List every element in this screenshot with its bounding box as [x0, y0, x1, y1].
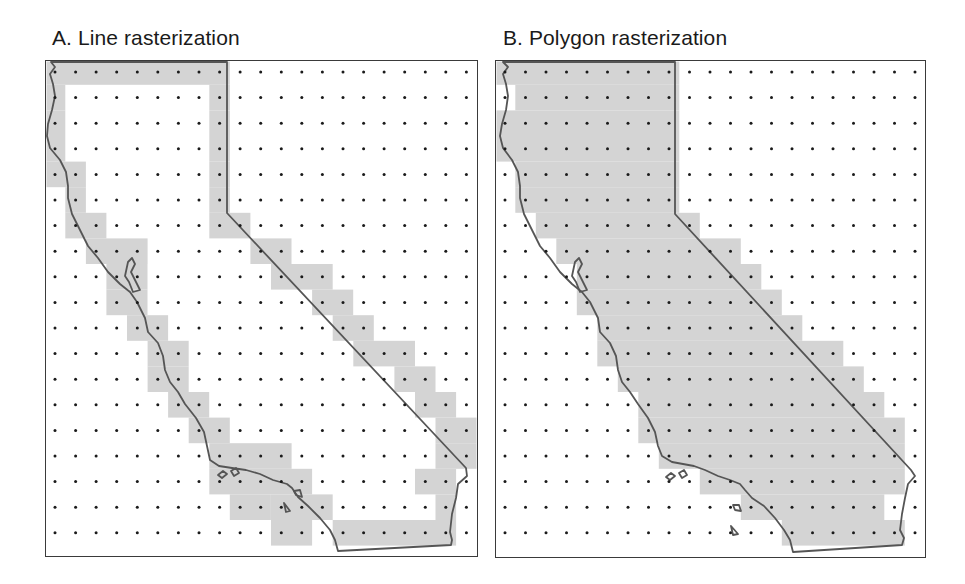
grid-dot — [832, 275, 835, 278]
grid-dot — [74, 301, 77, 304]
grid-dot — [647, 250, 650, 253]
grid-dot — [791, 275, 794, 278]
grid-dot — [627, 250, 630, 253]
grid-dot — [586, 275, 589, 278]
grid-dot — [688, 455, 691, 458]
raster-figure — [0, 0, 965, 584]
grid-dot — [115, 250, 118, 253]
grid-dot — [668, 327, 671, 330]
grid-dot — [115, 327, 118, 330]
grid-dot — [565, 122, 568, 125]
grid-dot — [136, 199, 139, 202]
grid-dot — [115, 224, 118, 227]
grid-dot — [239, 301, 242, 304]
grid-dot — [136, 147, 139, 150]
grid-dot — [811, 96, 814, 99]
grid-dot — [832, 224, 835, 227]
grid-dot — [606, 455, 609, 458]
grid-dot — [342, 122, 345, 125]
grid-dot — [852, 301, 855, 304]
grid-dot — [424, 327, 427, 330]
grid-dot — [524, 96, 527, 99]
grid-dot — [873, 250, 876, 253]
grid-dot — [54, 455, 57, 458]
grid-dot — [54, 173, 57, 176]
grid-dot — [321, 327, 324, 330]
grid-dot — [668, 301, 671, 304]
grid-dot — [403, 429, 406, 432]
grid-dot — [688, 71, 691, 74]
grid-dot — [465, 480, 468, 483]
grid-dot — [873, 71, 876, 74]
grid-dot — [218, 250, 221, 253]
grid-dot — [688, 147, 691, 150]
grid-dot — [54, 250, 57, 253]
grid-dot — [198, 506, 201, 509]
grid-dot — [627, 275, 630, 278]
grid-dot — [627, 480, 630, 483]
grid-dot — [218, 327, 221, 330]
grid-dot — [668, 480, 671, 483]
grid-dot — [811, 352, 814, 355]
grid-dot — [524, 147, 527, 150]
grid-dot — [709, 327, 712, 330]
grid-dot — [424, 122, 427, 125]
grid-dot — [280, 403, 283, 406]
grid-dot — [627, 173, 630, 176]
grid-dot — [647, 301, 650, 304]
grid-dot — [811, 378, 814, 381]
grid-dot — [177, 403, 180, 406]
grid-dot — [383, 352, 386, 355]
raster-cell — [333, 315, 374, 341]
grid-dot — [770, 429, 773, 432]
grid-dot — [321, 275, 324, 278]
grid-dot — [668, 531, 671, 534]
grid-dot — [321, 455, 324, 458]
grid-dot — [586, 506, 589, 509]
grid-dot — [198, 199, 201, 202]
grid-dot — [362, 96, 365, 99]
grid-dot — [156, 147, 159, 150]
grid-dot — [115, 199, 118, 202]
grid-dot — [54, 480, 57, 483]
grid-dot — [709, 71, 712, 74]
grid-dot — [136, 173, 139, 176]
grid-dot — [832, 199, 835, 202]
grid-dot — [504, 531, 507, 534]
grid-dot — [914, 96, 917, 99]
grid-dot — [444, 199, 447, 202]
grid-dot — [729, 378, 732, 381]
grid-dot — [893, 429, 896, 432]
grid-dot — [873, 531, 876, 534]
grid-dot — [504, 122, 507, 125]
grid-dot — [444, 455, 447, 458]
grid-dot — [239, 327, 242, 330]
grid-dot — [198, 275, 201, 278]
grid-dot — [832, 429, 835, 432]
grid-dot — [321, 531, 324, 534]
grid-dot — [627, 506, 630, 509]
grid-dot — [504, 352, 507, 355]
grid-dot — [156, 224, 159, 227]
grid-dot — [914, 403, 917, 406]
grid-dot — [74, 429, 77, 432]
grid-dot — [259, 506, 262, 509]
grid-dot — [668, 506, 671, 509]
grid-dot — [832, 250, 835, 253]
grid-dot — [239, 275, 242, 278]
grid-dot — [95, 199, 98, 202]
grid-dot — [198, 378, 201, 381]
grid-dot — [403, 147, 406, 150]
grid-dot — [177, 531, 180, 534]
grid-dot — [729, 122, 732, 125]
grid-dot — [300, 378, 303, 381]
grid-dot — [177, 275, 180, 278]
grid-dot — [465, 455, 468, 458]
grid-dot — [524, 352, 527, 355]
grid-dot — [668, 275, 671, 278]
grid-dot — [709, 275, 712, 278]
grid-dot — [647, 403, 650, 406]
grid-dot — [424, 275, 427, 278]
grid-dot — [136, 275, 139, 278]
grid-dot — [362, 173, 365, 176]
